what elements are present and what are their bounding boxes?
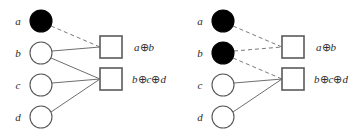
variable-node-label-d: d [197,111,203,123]
variable-node-label-c: c [198,79,203,91]
edge-b-to-c1-solid [52,47,100,51]
edge-c-to-c2-solid [52,79,100,83]
variable-node-label-d: d [15,111,21,123]
check-node-c2[interactable] [100,68,122,90]
edge-b-to-c2-dashed [233,58,282,79]
variable-node-d-empty[interactable] [212,106,234,128]
variable-node-c-empty[interactable] [30,74,52,96]
variable-node-b-empty[interactable] [30,42,52,64]
edge-b-to-c2-solid [51,58,100,79]
check-node-c1[interactable] [100,36,122,58]
edge-d-to-c2-solid [233,79,282,112]
check-node-label-c1: a⊕b [316,41,337,53]
variable-node-label-b: b [15,47,21,59]
edge-a-to-c1-dashed [233,26,282,47]
variable-node-label-b: b [197,47,203,59]
edge-a-to-c1-dashed [51,26,100,47]
edge-d-to-c2-solid [51,79,100,112]
edge-c-to-c2-solid [234,79,282,83]
diagram-canvas: abcda⊕bb⊕c⊕dabcda⊕bb⊕c⊕d [0,0,364,140]
check-node-label-c1: a⊕b [134,41,155,53]
variable-node-a-filled[interactable] [212,10,234,32]
tanner-graph-svg: abcda⊕bb⊕c⊕dabcda⊕bb⊕c⊕d [0,0,364,140]
variable-node-a-filled[interactable] [30,10,52,32]
variable-node-c-empty[interactable] [212,74,234,96]
variable-node-label-c: c [16,79,21,91]
check-node-label-c2: b⊕c⊕d [314,73,348,85]
check-node-label-c2: b⊕c⊕d [132,73,166,85]
variable-node-label-a: a [197,15,203,27]
check-node-c1[interactable] [282,36,304,58]
variable-node-d-empty[interactable] [30,106,52,128]
panel-right: abcda⊕bb⊕c⊕d [197,10,348,128]
edge-b-to-c1-dashed [234,47,282,51]
variable-node-b-filled[interactable] [212,42,234,64]
check-node-c2[interactable] [282,68,304,90]
variable-node-label-a: a [15,15,21,27]
panel-left: abcda⊕bb⊕c⊕d [15,10,166,128]
